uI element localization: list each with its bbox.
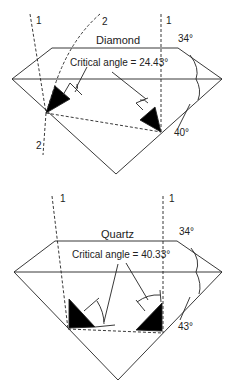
quartz-diagram [14,196,222,380]
quartz-outline [14,241,222,380]
diamond-crown-angle: 34° [178,34,193,44]
quartz-crown-angle: 34° [179,227,194,237]
diamond-ray2-top-label: 2 [102,17,108,27]
quartz-critical-angle-label: Critical angle = 40.33° [72,250,170,260]
diamond-ray2-bottom-label: 2 [36,141,42,151]
diamond-ray1-right-label: 1 [166,16,172,26]
diamond-pavilion-angle: 40° [174,128,189,138]
quartz-ray1-left [52,196,68,329]
quartz-ray1-left-label: 1 [60,194,66,204]
quartz-angle-wedge-left [69,299,95,328]
diamond-ray1-left-label: 1 [36,16,42,26]
quartz-ray1-right-label: 1 [169,194,175,204]
diamond-critical-angle-label: Critical angle = 24.43° [70,58,168,68]
quartz-angle-wedge-right [136,303,162,331]
quartz-pavilion-angle: 43° [178,322,193,332]
diamond-title: Diamond [96,35,140,46]
quartz-title: Quartz [101,229,134,240]
diamond-angle-wedge-right [140,107,161,132]
diamond-ray2-exit [43,113,46,155]
